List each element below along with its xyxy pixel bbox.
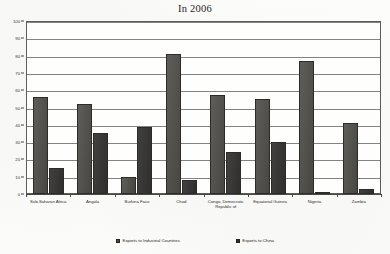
chart-screenshot: In 2006 0102030405060708090100 Sub-Sahar… (0, 0, 390, 254)
x-tick-mark (115, 194, 116, 197)
x-category-label: Zambia (337, 199, 381, 204)
x-tick-mark (337, 194, 338, 197)
y-axis: 0102030405060708090100 (0, 21, 24, 194)
gridlines (27, 22, 380, 193)
x-tick-mark (381, 194, 382, 197)
gridline (27, 91, 380, 92)
x-category-label: Sub-Saharan Africa (26, 199, 70, 204)
y-tick-label: 100 (13, 19, 20, 24)
y-tick-label: 60 (15, 88, 20, 93)
y-tick-mark (21, 55, 24, 56)
x-tick-mark (248, 194, 249, 197)
legend-swatch-icon (236, 239, 240, 243)
gridline (27, 109, 380, 110)
y-tick-label: 50 (15, 105, 20, 110)
y-tick-mark (21, 38, 24, 39)
gridline (27, 57, 380, 58)
y-tick-mark (21, 194, 24, 195)
gridline (27, 160, 380, 161)
y-tick-mark (21, 90, 24, 91)
x-category-label: Angola (70, 199, 114, 204)
y-tick-mark (21, 176, 24, 177)
y-tick-label: 10 (15, 174, 20, 179)
legend-entry: Exports to Industrial Countries (116, 238, 180, 243)
y-tick-label: 80 (15, 53, 20, 58)
y-tick-mark (21, 21, 24, 22)
y-tick-mark (21, 142, 24, 143)
y-tick-mark (21, 72, 24, 73)
gridline (27, 22, 380, 23)
chart-legend: Exports to Industrial CountriesExports t… (0, 238, 390, 243)
legend-swatch-icon (116, 239, 120, 243)
x-axis: Sub-Saharan AfricaAngolaBurkina FasoChad… (26, 197, 381, 231)
x-category-label: Chad (159, 199, 203, 204)
y-tick-label: 20 (15, 157, 20, 162)
y-tick-label: 90 (15, 36, 20, 41)
y-tick-mark (21, 124, 24, 125)
x-tick-mark (292, 194, 293, 197)
y-tick-label: 40 (15, 122, 20, 127)
x-tick-mark (159, 194, 160, 197)
legend-entry: Exports to China (236, 238, 274, 243)
y-tick-label: 70 (15, 70, 20, 75)
x-category-label: Nigeria (292, 199, 336, 204)
x-tick-mark (26, 194, 27, 197)
gridline (27, 39, 380, 40)
chart-title: In 2006 (0, 3, 390, 14)
legend-label: Exports to China (242, 238, 274, 243)
gridline (27, 143, 380, 144)
y-tick-label: 0 (18, 192, 20, 197)
x-category-label: Burkina Faso (115, 199, 159, 204)
x-category-label: Equatorial Guinea (248, 199, 292, 204)
gridline (27, 126, 380, 127)
gridline (27, 178, 380, 179)
y-tick-mark (21, 159, 24, 160)
y-tick-label: 30 (15, 140, 20, 145)
x-tick-mark (204, 194, 205, 197)
gridline (27, 74, 380, 75)
y-tick-mark (21, 107, 24, 108)
legend-label: Exports to Industrial Countries (123, 238, 180, 243)
x-tick-mark (70, 194, 71, 197)
x-category-label: Congo, Democratic Republic of (204, 199, 248, 210)
plot-area (26, 21, 381, 194)
